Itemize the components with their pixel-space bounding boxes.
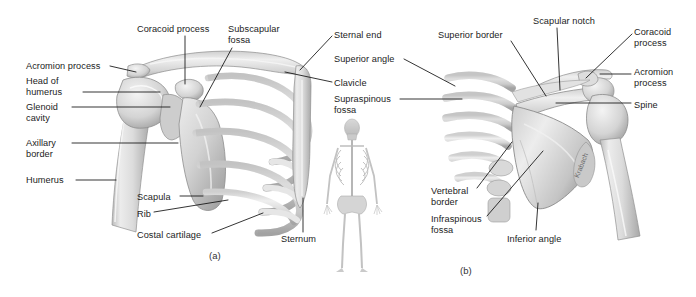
- label-rib-a: Rib: [137, 209, 151, 220]
- label-axillary-border-a: Axillary border: [26, 138, 56, 159]
- label-acromion-process-a: Acromion process: [26, 61, 100, 72]
- leader-costal-cartilage-a: [212, 213, 263, 233]
- whole-body-skeleton-inset: [324, 119, 382, 272]
- label-humerus-a: Humerus: [26, 175, 64, 186]
- label-clavicle-a: Clavicle: [334, 78, 367, 89]
- label-coracoid-process-a: Coracoid process: [137, 24, 209, 35]
- label-coracoid-process-b: Coracoid process: [634, 27, 671, 48]
- panel-a-artwork: [112, 51, 311, 233]
- humerus-bone-b: [600, 138, 640, 240]
- anatomy-illustration: [0, 0, 696, 297]
- label-supraspinous-fossa-a: Supraspinous fossa: [334, 94, 391, 115]
- anatomy-figure-root: Coracoid processSubscapular fossaSternal…: [0, 0, 696, 297]
- label-spine-b: Spine: [634, 100, 658, 111]
- coracoid-process-bone-a: [175, 79, 203, 100]
- label-subscapular-fossa-a: Subscapular fossa: [228, 24, 280, 45]
- label-infraspinous-fossa-b: Infraspinous fossa: [431, 214, 482, 235]
- panel-b-caption: (b): [460, 265, 472, 276]
- label-scapula-a: Scapula: [137, 192, 171, 203]
- label-inferior-angle-b: Inferior angle: [507, 234, 561, 245]
- leader-sternal-end-a: [300, 36, 332, 70]
- label-costal-cartilage-a: Costal cartilage: [137, 230, 201, 241]
- label-sternum-a: Sternum: [281, 234, 316, 245]
- label-head-of-humerus-a: Head of humerus: [26, 76, 62, 97]
- label-sternal-end-a: Sternal end: [334, 30, 382, 41]
- label-superior-border-b: Superior border: [438, 30, 503, 41]
- leader-superior-angle-a: [404, 59, 455, 86]
- label-acromion-process-b: Acromion process: [634, 67, 673, 88]
- label-scapular-notch-b: Scapular notch: [533, 16, 595, 27]
- label-vertebral-border-b: Vertebral border: [431, 186, 468, 207]
- head-of-humerus-bone-b: [587, 94, 629, 144]
- panel-a-caption: (a): [209, 250, 221, 261]
- label-superior-angle-a: Superior angle: [334, 54, 394, 65]
- label-glenoid-cavity-a: Glenoid cavity: [26, 102, 58, 123]
